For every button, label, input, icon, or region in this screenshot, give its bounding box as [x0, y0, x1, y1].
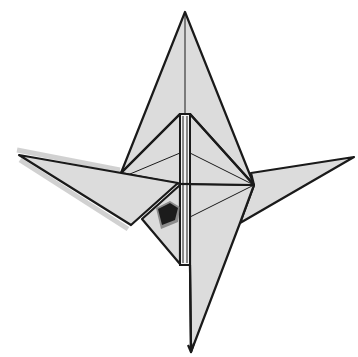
origami-diagram [0, 0, 358, 357]
lower-body [190, 184, 254, 352]
right-wing [240, 157, 354, 223]
central-strip [180, 114, 190, 265]
